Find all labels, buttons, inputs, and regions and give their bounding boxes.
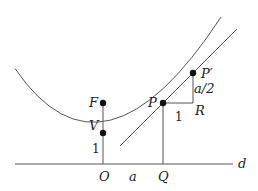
point-V <box>100 130 106 136</box>
label-Q: Q <box>158 169 169 184</box>
diagram-canvas: F V 1 P P′ a/2 R 1 O a Q d <box>0 0 258 191</box>
parabola-curve <box>15 17 221 122</box>
label-d: d <box>238 156 246 171</box>
parabola-diagram: F V 1 P P′ a/2 R 1 O a Q d <box>0 0 258 191</box>
label-P: P <box>147 95 157 110</box>
point-P <box>160 100 166 106</box>
label-OV-length: 1 <box>92 142 100 156</box>
point-F <box>100 100 106 106</box>
label-a-half: a/2 <box>194 81 214 96</box>
label-V: V <box>89 118 100 133</box>
label-R: R <box>194 103 205 118</box>
label-F: F <box>88 95 99 110</box>
label-PR-length: 1 <box>175 110 183 124</box>
point-P-prime <box>190 70 196 76</box>
label-a: a <box>129 169 137 184</box>
tangent-line <box>120 29 237 146</box>
label-P-prime: P′ <box>200 66 213 81</box>
label-O: O <box>99 169 110 184</box>
